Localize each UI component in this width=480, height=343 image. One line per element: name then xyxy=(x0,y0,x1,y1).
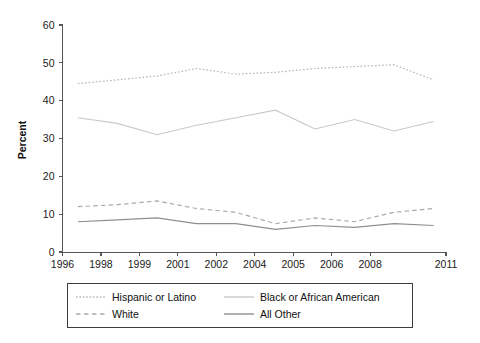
y-tick-label: 40 xyxy=(43,94,55,106)
legend-line-icon-white xyxy=(76,309,106,319)
y-tick-group: 0102030405060 xyxy=(43,19,63,258)
series-line-all-other xyxy=(78,218,434,229)
series-line-hispanic-or-latino xyxy=(78,65,434,84)
legend-entry-black-or-african-american: Black or African American xyxy=(224,288,406,306)
legend-line-icon-hispanic-or-latino xyxy=(76,292,106,302)
y-tick-label: 20 xyxy=(43,170,55,182)
y-tick-label: 30 xyxy=(43,132,55,144)
chart-figure: Percent 0102030405060 199619981999200120… xyxy=(0,0,480,343)
y-tick-label: 50 xyxy=(43,57,55,69)
legend-label-white: White xyxy=(112,309,139,320)
legend-grid: Hispanic or Latino Black or African Amer… xyxy=(68,284,412,327)
x-tick-label: 2001 xyxy=(166,258,190,270)
y-axis-title: Percent xyxy=(16,120,28,159)
x-tick-label: 2002 xyxy=(205,258,229,270)
legend-line-icon-all-other xyxy=(224,309,254,319)
legend-line-icon-black-or-african-american xyxy=(224,292,254,302)
legend-entry-all-other: All Other xyxy=(224,306,406,324)
x-tick-label: 2011 xyxy=(435,258,458,270)
x-tick-label: 2005 xyxy=(282,258,306,270)
legend-entry-white: White xyxy=(76,306,224,324)
x-tick-label: 1996 xyxy=(51,258,75,270)
y-tick-label: 60 xyxy=(43,19,55,31)
x-tick-label: 1998 xyxy=(89,258,113,270)
legend-label-hispanic-or-latino: Hispanic or Latino xyxy=(112,292,196,303)
line-chart-svg: Percent 0102030405060 199619981999200120… xyxy=(0,0,480,275)
x-tick-label: 2008 xyxy=(358,258,382,270)
legend-label-black-or-african-american: Black or African American xyxy=(260,292,380,303)
series-line-white xyxy=(78,201,434,224)
x-tick-label: 1999 xyxy=(128,258,152,270)
legend-label-all-other: All Other xyxy=(260,309,301,320)
plot-area: Percent 0102030405060 199619981999200120… xyxy=(0,0,480,275)
legend-entry-hispanic-or-latino: Hispanic or Latino xyxy=(76,288,224,306)
x-tick-label: 2004 xyxy=(243,258,267,270)
y-tick-label: 0 xyxy=(49,246,55,258)
x-tick-label: 2006 xyxy=(320,258,344,270)
y-tick-label: 10 xyxy=(43,208,55,220)
series-group xyxy=(78,65,434,230)
series-line-black-or-african-american xyxy=(78,110,434,135)
x-tick-group: 1996199819992001200220042005200620082011 xyxy=(51,252,458,270)
chart-legend: Hispanic or Latino Black or African Amer… xyxy=(67,283,413,328)
